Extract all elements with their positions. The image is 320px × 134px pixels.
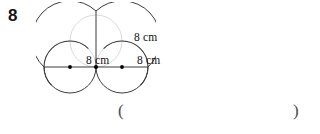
dot-left-centre — [68, 65, 72, 69]
answer-open-paren: ( — [118, 100, 124, 122]
question-number: 8 — [8, 6, 17, 26]
dimension-label-mid-left: 8 cm — [86, 54, 109, 67]
dimension-label-mid-right: 8 cm — [137, 54, 160, 67]
lower-left-semicircle — [44, 67, 96, 93]
worksheet-page: 8 — [0, 0, 320, 134]
dot-right-centre — [120, 65, 124, 69]
answer-close-paren: ) — [293, 100, 299, 122]
answer-row: ( ) — [0, 100, 320, 130]
geometry-figure: 8 cm 8 cm 8 cm — [36, 2, 156, 100]
dimension-label-top-right: 8 cm — [134, 31, 157, 44]
lower-right-semicircle — [96, 67, 148, 93]
geometry-figure-svg — [36, 2, 156, 100]
